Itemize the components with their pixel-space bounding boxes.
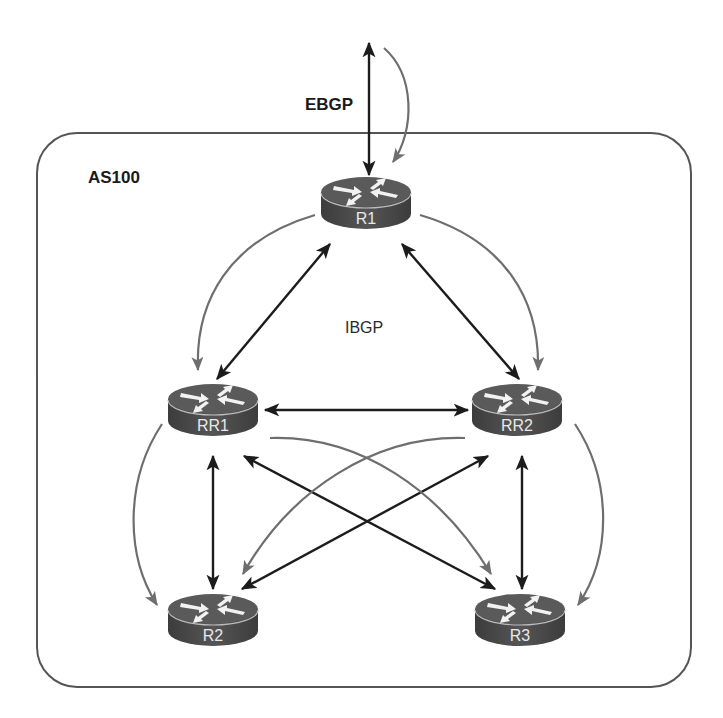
flow-rr2-to-r2 [243, 438, 465, 574]
ebgp-update-flow [384, 48, 409, 162]
router-rr2: RR2 [472, 384, 562, 436]
flow-rr2-to-r3 [575, 424, 603, 605]
router-label-r1: R1 [356, 210, 377, 227]
router-label-r2: R2 [203, 627, 224, 644]
router-r3: R3 [475, 594, 565, 646]
router-label-rr2: RR2 [501, 417, 533, 434]
as100-label: AS100 [88, 168, 140, 187]
flow-r1-to-rr1 [198, 215, 315, 370]
ebgp-label: EBGP [305, 95, 353, 114]
bgp-topology-diagram: R1 RR1 RR2 R2 R3 EBGP AS100 IBGP [0, 0, 723, 718]
flow-r1-to-rr2 [420, 215, 538, 370]
flow-rr1-to-r2 [134, 424, 162, 605]
router-rr1: RR1 [168, 384, 258, 436]
router-r1: R1 [321, 177, 411, 229]
router-label-rr1: RR1 [197, 417, 229, 434]
ibgp-label: IBGP [345, 319, 383, 336]
flow-rr1-to-r3 [270, 438, 491, 574]
router-r2: R2 [168, 594, 258, 646]
session-rr1-r3 [244, 456, 495, 589]
router-label-r3: R3 [510, 627, 531, 644]
